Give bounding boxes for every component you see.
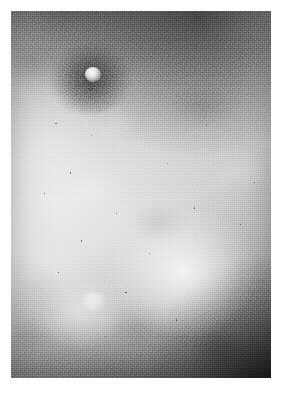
tonal-base-layer: [11, 11, 271, 378]
skin-speck: [99, 110, 100, 111]
skin-speck: [176, 319, 177, 320]
photograph-plate: [11, 11, 271, 378]
skin-speck: [240, 224, 241, 225]
primary-lesion-halo: [47, 37, 130, 114]
bottom-right-vignette: [11, 11, 271, 378]
page-canvas: [0, 0, 282, 396]
central-highlight: [11, 11, 271, 378]
skin-speck: [81, 240, 82, 241]
skin-speck: [91, 135, 92, 136]
skin-speck: [167, 163, 168, 164]
skin-speck: [125, 292, 126, 293]
film-grain-layer: [11, 11, 271, 378]
print-edge-vignette: [11, 11, 271, 378]
skin-speck: [194, 207, 195, 208]
skin-speck: [70, 172, 71, 173]
skin-speck: [55, 123, 57, 125]
lesion-bright-core: [85, 67, 101, 82]
skin-speck: [206, 125, 207, 126]
top-dark-band: [11, 11, 271, 378]
skin-speck: [254, 182, 255, 183]
skin-speck: [58, 272, 59, 273]
secondary-papule: [83, 292, 105, 311]
skin-speck: [79, 99, 80, 100]
skin-speck: [44, 193, 46, 195]
skin-speck: [149, 253, 150, 254]
skin-speck: [105, 336, 107, 338]
primary-lesion-striae: [50, 40, 128, 113]
skin-speck: [33, 319, 34, 320]
skin-speck: [138, 81, 139, 82]
skin-speck: [116, 213, 117, 214]
skin-mottling-layer: [11, 11, 271, 378]
skin-speck-field: [11, 11, 271, 378]
coarse-film-grain: [11, 11, 271, 378]
